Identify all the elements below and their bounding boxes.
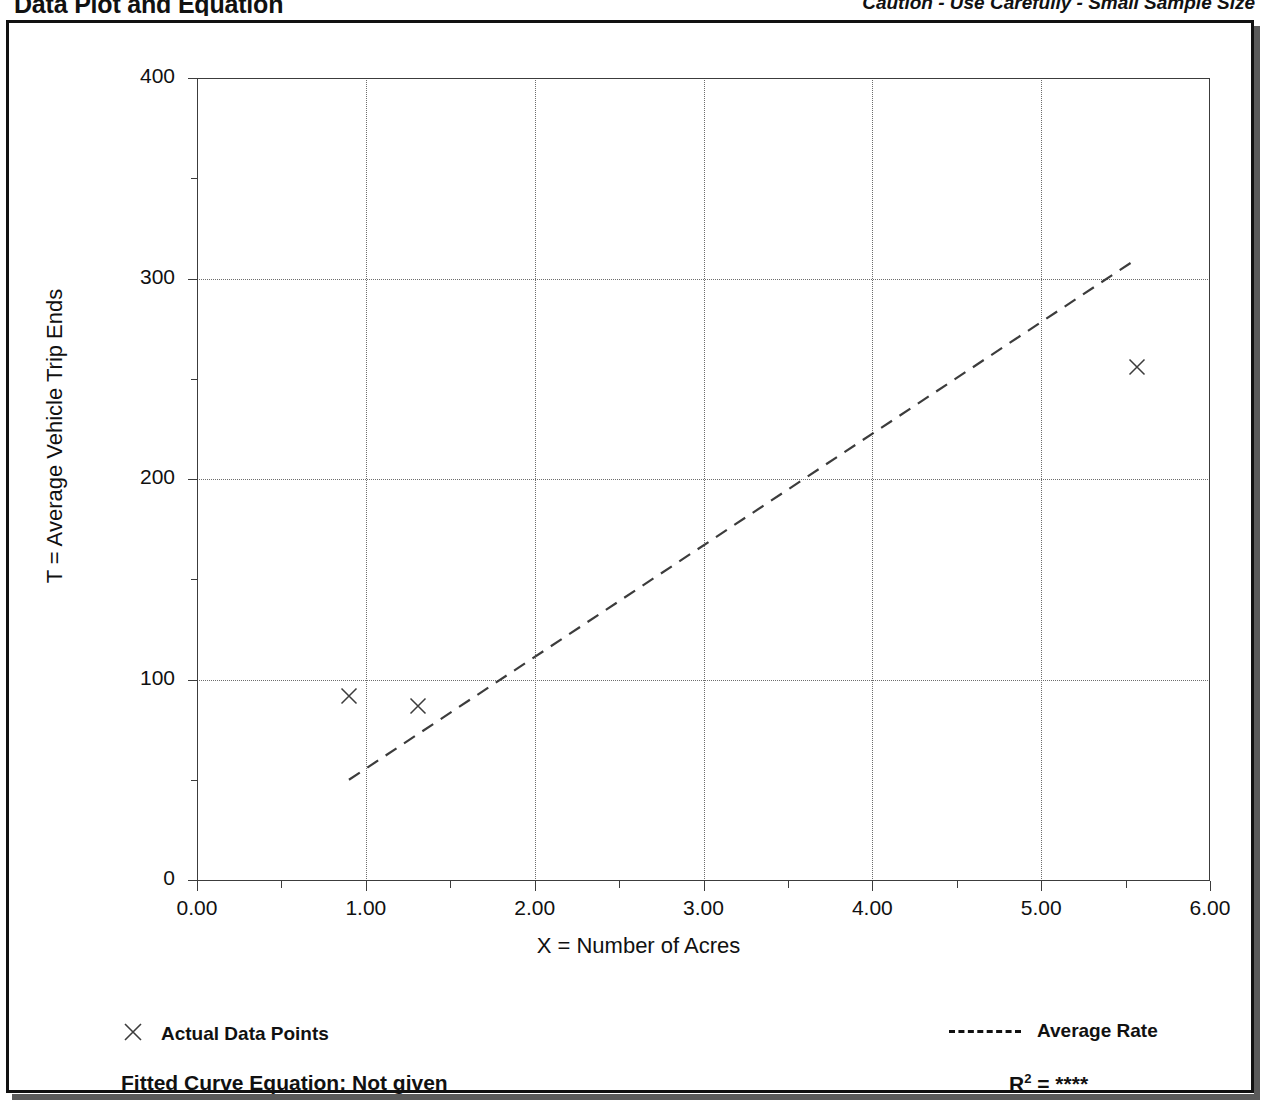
r-squared-value: R2 = **** [1009,1071,1088,1096]
plot-frame-right [1209,78,1210,881]
plot-frame-top [197,78,1210,79]
legend-item-actual-data-points: Actual Data Points [121,1020,329,1048]
x-tick-minor [450,881,451,888]
x-tick-label: 4.00 [852,896,893,920]
y-tick-label: 300 [140,265,175,289]
x-tick-major [872,881,873,891]
x-tick-label: 3.00 [683,896,724,920]
x-tick-label: 0.00 [177,896,218,920]
y-tick-label: 200 [140,465,175,489]
x-tick-major [1041,881,1042,891]
x-marker-icon [121,1020,145,1048]
y-axis-line [197,78,198,881]
x-tick-label: 2.00 [514,896,555,920]
legend-label-actual-data-points: Actual Data Points [161,1023,329,1045]
x-axis-line [197,880,1210,881]
x-axis-title: X = Number of Acres [3,933,1271,959]
legend-item-average-rate: Average Rate [949,1020,1158,1042]
x-tick-major [197,881,198,891]
x-tick-minor [619,881,620,888]
y-tick-label: 0 [163,866,175,890]
dashed-line-icon [949,1030,1021,1033]
r-squared-exponent: 2 [1024,1071,1031,1086]
y-tick-label: 100 [140,666,175,690]
x-tick-label: 5.00 [1021,896,1062,920]
data-point-marker [407,695,429,717]
gridline-vertical [704,78,705,881]
r-squared-equals-value: = **** [1037,1072,1088,1095]
x-tick-minor [1126,881,1127,888]
gridline-vertical [1041,78,1042,881]
gridline-vertical [872,78,873,881]
legend-label-average-rate: Average Rate [1037,1020,1158,1042]
r-squared-symbol: R [1009,1072,1024,1095]
x-tick-label: 1.00 [345,896,386,920]
x-tick-major [535,881,536,891]
average-rate-line [349,258,1137,779]
x-tick-label: 6.00 [1190,896,1231,920]
data-point-marker [338,685,360,707]
y-axis-title: T = Average Vehicle Trip Ends [42,156,68,716]
data-point-marker [1126,356,1148,378]
y-tick-label: 400 [140,64,175,88]
gridline-vertical [366,78,367,881]
x-tick-major [704,881,705,891]
x-tick-minor [788,881,789,888]
chart-panel: 01002003004000.001.002.003.004.005.006.0… [6,20,1254,1093]
scatter-plot: 01002003004000.001.002.003.004.005.006.0… [3,3,1271,1113]
fitted-curve-equation: Fitted Curve Equation: Not given [121,1071,448,1095]
x-tick-major [366,881,367,891]
gridline-vertical [535,78,536,881]
x-tick-minor [957,881,958,888]
x-tick-minor [281,881,282,888]
x-tick-major [1210,881,1211,891]
